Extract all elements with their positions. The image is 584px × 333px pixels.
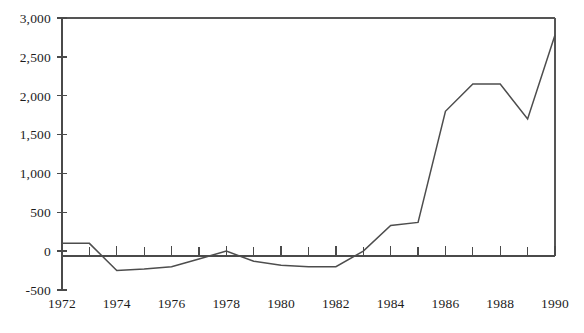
x-tick-label: 1974 [103, 296, 131, 311]
x-tick-label: 1988 [486, 296, 514, 311]
chart-background [0, 0, 584, 333]
line-chart-figure: 3,0002,5002,0001,5001,0005000-500 197219… [0, 0, 584, 333]
x-tick-label: 1984 [377, 296, 405, 311]
x-tick-label: 1980 [267, 296, 295, 311]
x-tick-label: 1982 [322, 296, 350, 311]
x-tick-label: 1976 [158, 296, 186, 311]
y-tick-label: 3,000 [20, 11, 51, 26]
y-tick-label: 500 [30, 205, 51, 220]
y-tick-label: 1,500 [20, 127, 51, 142]
y-tick-label: 0 [44, 244, 51, 259]
chart-canvas: 3,0002,5002,0001,5001,0005000-500 197219… [0, 0, 584, 333]
x-tick-label: 1990 [541, 296, 569, 311]
y-tick-label: 1,000 [20, 166, 51, 181]
x-tick-label: 1978 [212, 296, 240, 311]
x-tick-label: 1986 [432, 296, 460, 311]
x-tick-label: 1972 [48, 296, 76, 311]
y-tick-label: 2,500 [20, 50, 51, 65]
y-tick-label: 2,000 [20, 89, 51, 104]
